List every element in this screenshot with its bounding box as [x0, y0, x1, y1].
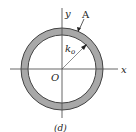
ring-diagram: y A x O ko (d) [0, 0, 136, 132]
y-axis-label: y [64, 8, 71, 19]
figure-caption: (d) [54, 123, 67, 132]
radius-label: ko [65, 43, 75, 56]
x-axis-label: x [121, 64, 127, 75]
origin-label: O [51, 72, 59, 83]
radius-label-sub: o [71, 48, 75, 56]
area-label: A [81, 9, 90, 20]
